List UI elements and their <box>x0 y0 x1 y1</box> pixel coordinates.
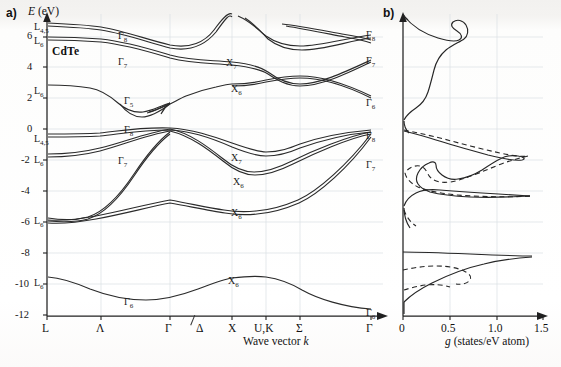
ytick-0: 0 <box>27 123 32 134</box>
xtick-Gamma2: Γ <box>366 322 373 334</box>
dostick-0: 0 <box>399 322 405 334</box>
y-axis-title: E (eV) <box>28 5 59 17</box>
xtick-Lambda: Λ <box>96 322 104 334</box>
dostick-05: 0.5 <box>441 322 455 334</box>
band-label-L-4: L6 <box>34 154 44 168</box>
band-label-gamma-0: Γ8 <box>118 30 127 44</box>
axis-panel-a <box>47 20 381 316</box>
x-axis-title-b: g (states/eV atom) <box>445 335 529 347</box>
ytick-m2: -2 <box>21 154 30 165</box>
band-label-gamma-2: Γ5 <box>124 95 133 109</box>
band-label-gamma-3: Γ8 <box>124 124 133 138</box>
ytick-6: 6 <box>27 30 32 41</box>
band-label-gamma-1: Γ7 <box>118 56 127 70</box>
band-label-L-1: L6 <box>34 35 44 49</box>
y-axis-arrow-b <box>399 12 407 22</box>
band-label-L-6: L6 <box>34 277 44 291</box>
band-label-L-3: L4,5 <box>34 133 49 147</box>
band-label-gamma-5: Γ6 <box>124 296 133 310</box>
dos-curve-partial <box>403 130 532 290</box>
ytick-m4: -4 <box>21 185 30 196</box>
valence-bands <box>48 128 371 309</box>
xtick-UK: U,K <box>254 322 274 334</box>
material-label: CdTe <box>52 45 79 57</box>
ytick-m6: -6 <box>21 216 30 227</box>
panel-b-letter: b) <box>383 6 394 20</box>
band-label-L-2: L6 <box>34 85 44 99</box>
conduction-bands <box>48 14 371 114</box>
ytick-4: 4 <box>27 61 32 72</box>
grid-lines-panel-a <box>47 14 383 315</box>
band-label-X-4: X6 <box>231 207 242 221</box>
ytick-m10: -10 <box>15 278 29 289</box>
gamma6-conduction-band <box>147 76 371 113</box>
panel-a-letter: a) <box>6 6 17 20</box>
xtick-L: L <box>42 322 49 334</box>
x-axis-arrow-a <box>377 312 388 320</box>
band-label-gamma-right-0: Γ8 <box>366 29 375 43</box>
xtick-Sigma: Σ <box>296 322 303 334</box>
dostick-15: 1.5 <box>534 322 548 334</box>
band-label-gamma-right-1: Γ7 <box>366 55 375 69</box>
x-axis-title-a: Wave vector k <box>243 335 308 347</box>
dos-curve-total <box>403 14 532 314</box>
band-label-gamma-right-4: Γ7 <box>366 159 375 173</box>
figure-root: a) b) E (eV) Wave vector k g (states/eV … <box>0 0 561 367</box>
band-label-X-0: X7 <box>226 57 237 71</box>
band-label-gamma-right-5: Γ6 <box>366 307 375 321</box>
xtick-Gamma: Γ <box>165 322 172 334</box>
ytick-2: 2 <box>27 92 32 103</box>
dostick-10: 1.0 <box>488 322 502 334</box>
band-label-X-3: X6 <box>233 176 244 190</box>
band-label-gamma-4: Γ7 <box>118 155 127 169</box>
band-label-L-0: L4,5 <box>34 21 49 35</box>
band-label-X-1: X6 <box>231 83 242 97</box>
band-label-X-5: X6 <box>228 275 239 289</box>
xtick-X: X <box>228 322 236 334</box>
band-label-X-2: X7 <box>231 152 242 166</box>
band-label-gamma-right-2: Γ6 <box>366 97 375 111</box>
band-label-L-5: L6 <box>34 215 44 229</box>
ytick-m8: -8 <box>21 247 30 258</box>
figure-canvas <box>0 0 561 367</box>
grid-lines-panel-b <box>403 14 543 315</box>
ytick-m12: -12 <box>15 309 29 320</box>
band-label-gamma-right-3: Γ8 <box>366 130 375 144</box>
